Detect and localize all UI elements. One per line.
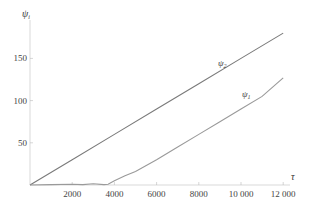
x-tick-label: 2000: [63, 189, 82, 199]
y-tick-label: 50: [18, 138, 28, 148]
series-labels: ψ2ψ1: [218, 58, 251, 100]
x-tick-label: 12 000: [271, 189, 296, 199]
y-axis-label: ψi: [22, 8, 30, 20]
x-tick-label: 6000: [148, 189, 167, 199]
x-axis-label: τ: [291, 171, 295, 182]
y-tick-label: 150: [14, 53, 28, 63]
series-label-psi2: ψ2: [218, 58, 227, 69]
series-line-psi2: [30, 33, 283, 185]
y-tick-label: 100: [14, 96, 28, 106]
line-chart: 50100150 200040006000800010 00012 000 ψ2…: [0, 0, 313, 208]
x-tick-label: 8000: [190, 189, 209, 199]
series-label-psi1: ψ1: [242, 89, 251, 100]
x-tick-label: 10 000: [229, 189, 254, 199]
x-tick-label: 4000: [105, 189, 124, 199]
series-lines: [30, 33, 283, 185]
